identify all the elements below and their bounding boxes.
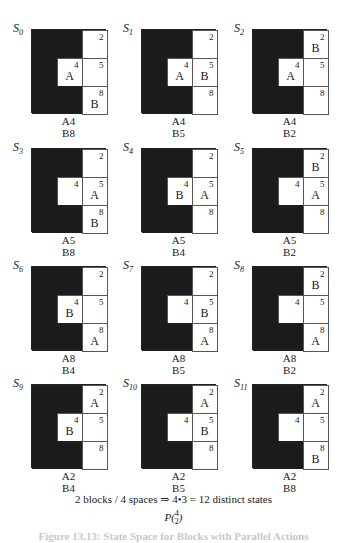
- space-cell: 4: [278, 413, 304, 442]
- wall-cell: [167, 149, 192, 177]
- space-cell: 2A: [192, 385, 218, 414]
- wall-cell: [142, 177, 167, 205]
- cell-number: 4: [184, 297, 189, 307]
- space-cell: 5: [303, 295, 329, 324]
- block-b: B: [193, 306, 217, 321]
- space-cell: 5: [82, 295, 108, 324]
- wall-cell: [167, 86, 192, 114]
- cell-number: 5: [99, 297, 104, 307]
- state-grid: 24B5A8: [141, 148, 216, 232]
- space-cell: 2: [192, 267, 218, 296]
- space-cell: 2: [82, 267, 108, 296]
- cell-number: 4: [295, 415, 300, 425]
- wall-cell: [57, 267, 82, 295]
- wall-cell: [32, 323, 57, 351]
- wall-cell: [32, 149, 57, 177]
- space-cell: 5: [82, 58, 108, 87]
- perm-suffix: ): [179, 511, 183, 523]
- position-a: A8: [252, 352, 327, 364]
- wall-cell: [32, 177, 57, 205]
- wall-cell: [253, 441, 278, 469]
- space-cell: 4A: [278, 58, 304, 87]
- state-grid: 2A45B8: [141, 384, 216, 468]
- cell-number: 8: [320, 88, 325, 98]
- wall-cell: [253, 149, 278, 177]
- cell-number: 2: [99, 151, 104, 161]
- summary-text: 2 blocks / 4 spaces ⇒ 4•3 = 12 distinct …: [0, 493, 347, 506]
- block-b: B: [304, 160, 328, 175]
- wall-cell: [32, 205, 57, 233]
- wall-cell: [142, 385, 167, 413]
- block-b: B: [58, 424, 82, 439]
- space-cell: 4: [278, 177, 304, 206]
- wall-cell: [57, 30, 82, 58]
- wall-cell: [253, 323, 278, 351]
- state-label: S11: [234, 376, 247, 392]
- wall-cell: [253, 205, 278, 233]
- state-grid: 24B58A: [31, 266, 106, 350]
- cell-number: 5: [320, 415, 325, 425]
- space-cell: 8: [192, 86, 218, 115]
- block-a: A: [279, 69, 303, 84]
- cell-number: 2: [209, 32, 214, 42]
- block-a: A: [168, 69, 192, 84]
- block-a: A: [83, 396, 107, 411]
- state-label: S8: [234, 258, 244, 274]
- wall-cell: [167, 267, 192, 295]
- position-b: B8: [31, 246, 106, 258]
- space-cell: 5B: [192, 413, 218, 442]
- position-b: B4: [31, 364, 106, 376]
- cell-number: 5: [320, 60, 325, 70]
- space-cell: 5B: [192, 295, 218, 324]
- wall-cell: [167, 205, 192, 233]
- block-b: B: [304, 41, 328, 56]
- state-grid: 245A8B: [31, 148, 106, 232]
- block-b: B: [83, 216, 107, 231]
- state-label: S7: [123, 258, 133, 274]
- state-label: S6: [13, 258, 23, 274]
- block-b: B: [193, 424, 217, 439]
- wall-cell: [32, 441, 57, 469]
- wall-cell: [57, 86, 82, 114]
- wall-cell: [253, 30, 278, 58]
- state-grid: 245B8A: [141, 266, 216, 350]
- permutation-formula: P(42): [0, 510, 347, 526]
- cell-number: 2: [99, 32, 104, 42]
- wall-cell: [278, 385, 303, 413]
- perm-prefix: P(: [164, 511, 174, 523]
- space-cell: 4: [57, 177, 83, 206]
- wall-cell: [142, 149, 167, 177]
- space-cell: 8: [192, 441, 218, 470]
- space-cell: 2A: [303, 385, 329, 414]
- wall-cell: [253, 86, 278, 114]
- state-panel: S3245A8BA5B8: [31, 148, 141, 266]
- position-b: B8: [31, 127, 106, 139]
- space-cell: 2: [192, 149, 218, 178]
- position-a: A5: [252, 234, 327, 246]
- wall-cell: [32, 58, 57, 86]
- space-cell: 5A: [303, 177, 329, 206]
- wall-cell: [32, 30, 57, 58]
- space-cell: 8: [303, 205, 329, 234]
- space-cell: 8A: [303, 323, 329, 352]
- state-grid: 2A4B58: [31, 384, 106, 468]
- state-grid: 2B45A8: [252, 148, 327, 232]
- block-a: A: [304, 188, 328, 203]
- wall-cell: [253, 58, 278, 86]
- position-a: A5: [141, 234, 216, 246]
- block-a: A: [193, 188, 217, 203]
- position-b: B5: [141, 364, 216, 376]
- block-b: B: [168, 188, 192, 203]
- state-label: S0: [13, 21, 23, 37]
- wall-cell: [253, 267, 278, 295]
- block-a: A: [83, 334, 107, 349]
- space-cell: 2A: [82, 385, 108, 414]
- block-b: B: [83, 97, 107, 112]
- wall-cell: [278, 30, 303, 58]
- position-a: A8: [141, 352, 216, 364]
- position-b: B5: [141, 127, 216, 139]
- wall-cell: [253, 295, 278, 323]
- position-a: A4: [141, 115, 216, 127]
- block-b: B: [58, 306, 82, 321]
- space-cell: 8B: [303, 441, 329, 470]
